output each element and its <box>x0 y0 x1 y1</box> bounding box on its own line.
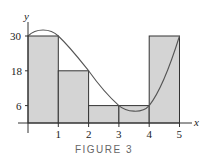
riemann-sum-plot: y x 30 18 6 1 2 3 4 5 <box>0 0 208 159</box>
bars <box>28 36 180 123</box>
y-tick-6: 6 <box>16 100 22 112</box>
y-axis-label: y <box>23 10 29 22</box>
x-axis-label: x <box>193 116 199 128</box>
x-tick-3: 3 <box>116 128 122 140</box>
y-tick-18: 18 <box>11 65 23 77</box>
x-tick-1: 1 <box>56 128 62 140</box>
bar-1 <box>28 36 58 123</box>
bar-3 <box>89 106 119 123</box>
x-tick-2: 2 <box>86 128 92 140</box>
x-tick-5: 5 <box>177 128 183 140</box>
figure-caption: FIGURE 3 <box>0 144 208 155</box>
x-tick-4: 4 <box>147 128 153 140</box>
y-tick-30: 30 <box>10 30 22 42</box>
bar-2 <box>58 71 88 123</box>
